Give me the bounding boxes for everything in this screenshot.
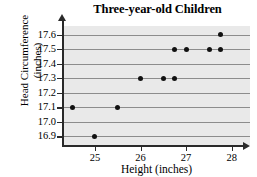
y-tick-mark	[57, 93, 63, 94]
y-tick-mark	[57, 49, 63, 50]
data-point	[218, 32, 223, 37]
data-point	[172, 47, 177, 52]
x-axis-title: Height (inches)	[63, 163, 250, 175]
data-point	[161, 76, 166, 81]
x-tick-mark	[95, 145, 96, 151]
x-tick-mark	[141, 145, 142, 151]
x-tick-label: 25	[82, 152, 108, 163]
y-axis-title: Head Circumference (inches)	[18, 0, 43, 141]
x-tick-label: 28	[219, 152, 245, 163]
data-point	[70, 105, 75, 110]
gridline	[63, 122, 250, 123]
y-tick-mark	[57, 107, 63, 108]
data-point	[184, 47, 189, 52]
plot-area	[63, 26, 250, 145]
x-tick-mark	[232, 145, 233, 151]
scatter-plot-figure: Three-year-old Children 16.917.017.117.2…	[0, 0, 257, 177]
data-point	[172, 76, 177, 81]
x-axis-arrow-icon	[243, 142, 250, 150]
y-tick-mark	[57, 64, 63, 65]
chart-title: Three-year-old Children	[60, 2, 255, 16]
gridline	[63, 136, 250, 137]
gridline	[63, 64, 250, 65]
y-axis-title-line-2: (inches)	[30, 0, 43, 141]
y-tick-mark	[57, 35, 63, 36]
y-tick-mark	[57, 78, 63, 79]
y-tick-mark	[57, 122, 63, 123]
x-tick-mark	[186, 145, 187, 151]
gridline	[63, 78, 250, 79]
y-axis-line	[62, 20, 64, 146]
x-axis-line	[62, 145, 245, 147]
data-point	[115, 105, 120, 110]
y-tick-mark	[57, 136, 63, 137]
gridline	[63, 107, 250, 108]
data-point	[138, 76, 143, 81]
data-point	[92, 134, 97, 139]
y-axis-title-line-1: Head Circumference	[18, 0, 31, 141]
x-tick-label: 26	[128, 152, 154, 163]
data-point	[218, 47, 223, 52]
data-point	[207, 47, 212, 52]
x-tick-label: 27	[173, 152, 199, 163]
gridline	[63, 93, 250, 94]
y-axis-arrow-icon	[58, 14, 66, 21]
